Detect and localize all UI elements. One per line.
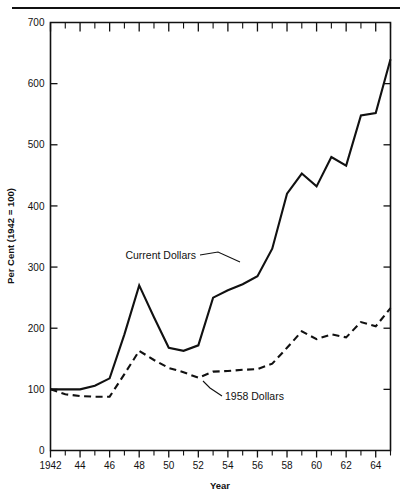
x-tick-label-60: 60: [311, 460, 323, 471]
x-tick-label-52: 52: [193, 460, 205, 471]
y-tick-label-0: 0: [39, 445, 45, 456]
y-axis-ticks-left: [51, 84, 58, 390]
x-tick-label-56: 56: [252, 460, 264, 471]
chart-canvas: 19424446485052545658606264 0100200300400…: [0, 0, 412, 497]
leader-line-current-dollars: [200, 252, 240, 262]
x-axis-title: Year: [210, 480, 230, 491]
x-tick-label-58: 58: [281, 460, 293, 471]
y-tick-label-100: 100: [28, 384, 45, 395]
top-rule: [12, 7, 400, 9]
chart-figure: 19424446485052545658606264 0100200300400…: [0, 0, 412, 497]
annotation-label-current-dollars: Current Dollars: [125, 249, 196, 261]
x-tick-label-62: 62: [341, 460, 353, 471]
y-tick-label-700: 700: [28, 17, 45, 28]
y-tick-label-400: 400: [28, 201, 45, 212]
x-tick-label-46: 46: [104, 460, 116, 471]
x-axis-ticks: [51, 23, 391, 458]
y-tick-label-600: 600: [28, 78, 45, 89]
y-axis-ticks-right: [384, 84, 391, 390]
x-tick-label-1942: 1942: [39, 460, 62, 471]
series-group: [51, 59, 391, 397]
axis-frame: [51, 23, 391, 451]
y-axis-tick-labels: 0100200300400500600700: [28, 17, 45, 456]
y-axis-title: Per Cent (1942 = 100): [5, 188, 16, 284]
series-current-dollars: [51, 59, 391, 389]
annotation-label-1958-dollars: 1958 Dollars: [225, 390, 284, 402]
x-tick-label-64: 64: [370, 460, 382, 471]
x-tick-label-44: 44: [75, 460, 87, 471]
annotation-1958-dollars: 1958 Dollars: [203, 381, 284, 402]
annotation-current-dollars: Current Dollars: [125, 249, 240, 262]
y-tick-label-500: 500: [28, 139, 45, 150]
y-tick-label-300: 300: [28, 262, 45, 273]
y-tick-label-200: 200: [28, 323, 45, 334]
x-tick-label-50: 50: [163, 460, 175, 471]
x-tick-label-48: 48: [134, 460, 146, 471]
leader-line-1958-dollars: [203, 381, 222, 396]
x-tick-label-54: 54: [222, 460, 234, 471]
x-axis-tick-labels: 19424446485052545658606264: [39, 460, 381, 471]
